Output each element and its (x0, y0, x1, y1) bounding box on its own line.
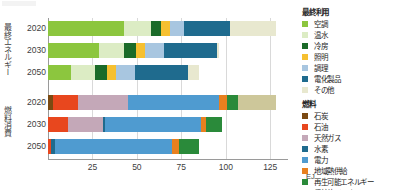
bar-fuel-2050 (48, 139, 199, 154)
legend-item-照明[interactable]: 照明 (296, 51, 400, 62)
legend-item-電化製品[interactable]: 電化製品 (296, 73, 400, 84)
legend-label: 調理 (314, 62, 327, 73)
bar-segment-照明 (161, 21, 170, 36)
legend-label: 電化製品 (314, 73, 340, 84)
legend-swatch-icon (302, 43, 308, 49)
legend-label: 照明 (314, 51, 327, 62)
legend-item-伝統的バイオマス[interactable]: 伝統的バイオマス (296, 187, 400, 190)
bar-segment-電力 (55, 139, 172, 154)
bar-fuel-2030 (48, 117, 222, 132)
legend-title-0: 最終利用 (302, 6, 400, 17)
legend-item-温水[interactable]: 温水 (296, 29, 400, 40)
legend-item-冷房[interactable]: 冷房 (296, 40, 400, 51)
x-tick-label-75: 75 (177, 162, 186, 172)
top-left-artifact (2, 1, 36, 6)
bar-segment-空調 (48, 43, 99, 58)
legend-item-その他[interactable]: その他 (296, 84, 400, 95)
bar-segment-その他 (188, 65, 199, 80)
legend-label: 石炭 (314, 110, 327, 121)
legend-item-空調[interactable]: 空調 (296, 18, 400, 29)
x-tick-label-125: 125 (263, 162, 277, 172)
legend-swatch-icon (302, 135, 308, 141)
bar-segment-調理 (116, 65, 135, 80)
legend-title-1: 燃料 (302, 98, 400, 109)
gridline-125 (270, 18, 271, 160)
bar-segment-伝統的バイオマス (238, 95, 275, 110)
x-tick-label-25: 25 (88, 162, 97, 172)
x-tick-label-100: 100 (219, 162, 233, 172)
bar-segment-その他 (217, 43, 219, 58)
bar-segment-調理 (145, 43, 165, 58)
legend-item-石油[interactable]: 石油 (296, 121, 400, 132)
bar-enduse-2050 (48, 65, 199, 80)
bar-enduse-2020 (48, 21, 276, 36)
category-label-fuel-2020: 2020 (12, 95, 46, 110)
bar-segment-天然ガス (78, 95, 128, 110)
legend-label: 水素 (314, 143, 327, 154)
legend-label: 冷房 (314, 40, 327, 51)
legend-swatch-icon (302, 65, 308, 71)
bar-segment-地域熱供給 (219, 95, 227, 110)
legend-label: 空調 (314, 18, 327, 29)
legend-label: 温水 (314, 29, 327, 40)
bar-segment-再生可能エネルギー (179, 139, 199, 154)
bar-segment-天然ガス (68, 117, 104, 132)
category-label-fuel-2050: 2050 (12, 139, 46, 154)
bar-segment-温水 (99, 43, 125, 58)
legend-swatch-icon (302, 190, 308, 191)
bar-segment-再生可能エネルギー (206, 117, 222, 132)
legend-block-0: 最終利用空調温水冷房照明調理電化製品その他 (296, 6, 400, 95)
bar-segment-温水 (71, 65, 95, 80)
legend-swatch-icon (302, 124, 308, 130)
legend-swatch-icon (302, 179, 308, 185)
x-axis-line (48, 159, 288, 160)
bar-segment-照明 (136, 43, 145, 58)
bar-segment-電化製品 (164, 43, 216, 58)
bar-segment-冷房 (124, 43, 136, 58)
legend-block-1: 燃料石炭石油天然ガス水素電力地域熱供給再生可能エネルギー伝統的バイオマス (296, 98, 400, 190)
legend-item-水素[interactable]: 水素 (296, 143, 400, 154)
bar-segment-電化製品 (184, 21, 230, 36)
bar-segment-電力 (105, 117, 201, 132)
category-labels: 2020 2030 2050 2020 2030 2050 (0, 18, 46, 160)
bar-segment-照明 (107, 65, 117, 80)
bar-segment-冷房 (95, 65, 107, 80)
category-label-enduse-2020: 2020 (12, 21, 46, 36)
gridline-100 (226, 18, 227, 160)
bar-segment-空調 (48, 21, 124, 36)
chart-root: 最終エネルギー消費 燃料消費 2020 2030 2050 2020 2030 … (0, 0, 400, 190)
legend-label: 天然ガス (314, 132, 340, 143)
legend-swatch-icon (302, 76, 308, 82)
category-label-fuel-2030: 2030 (12, 117, 46, 132)
legend-swatch-icon (302, 32, 308, 38)
x-axis-ticks: 255075100125 (48, 162, 288, 176)
bar-fuel-2020 (48, 95, 276, 110)
bar-segment-調理 (170, 21, 184, 36)
legend-swatch-icon (302, 113, 308, 119)
legend-item-電力[interactable]: 電力 (296, 154, 400, 165)
legend-label: その他 (314, 84, 334, 95)
legend-label: 石油 (314, 121, 327, 132)
legend: 最終利用空調温水冷房照明調理電化製品その他燃料石炭石油天然ガス水素電力地域熱供給… (296, 6, 400, 190)
bar-segment-石油 (48, 117, 68, 132)
legend-item-地域熱供給[interactable]: 地域熱供給 (296, 165, 400, 176)
bar-segment-その他 (230, 21, 275, 36)
bar-segment-冷房 (151, 21, 161, 36)
legend-item-再生可能エネルギー[interactable]: 再生可能エネルギー (296, 176, 400, 187)
legend-swatch-icon (302, 21, 308, 27)
legend-item-調理[interactable]: 調理 (296, 62, 400, 73)
legend-swatch-icon (302, 146, 308, 152)
bar-segment-電力 (128, 95, 219, 110)
legend-item-天然ガス[interactable]: 天然ガス (296, 132, 400, 143)
bar-segment-再生可能エネルギー (227, 95, 239, 110)
legend-label: 電力 (314, 154, 327, 165)
legend-item-石炭[interactable]: 石炭 (296, 110, 400, 121)
bar-segment-温水 (124, 21, 151, 36)
legend-label: 再生可能エネルギー (314, 176, 373, 187)
legend-swatch-icon (302, 168, 308, 174)
bar-segment-空調 (48, 65, 71, 80)
legend-swatch-icon (302, 157, 308, 163)
bar-segment-電化製品 (135, 65, 188, 80)
bar-segment-石油 (53, 95, 78, 110)
category-label-enduse-2030: 2030 (12, 43, 46, 58)
